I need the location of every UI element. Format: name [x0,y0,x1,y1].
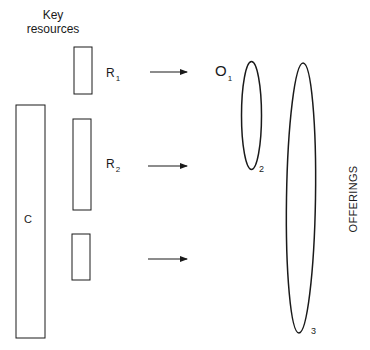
resource-box-r3 [72,234,90,280]
key-resources-heading: Key resources [13,8,93,36]
offering-ellipse-2 [242,62,262,170]
core-label: C [24,214,32,225]
offering-label-2: 2 [259,165,264,174]
diagram-canvas [0,0,370,350]
resource-label-r2: R2 [106,158,120,170]
offering-ellipse-3 [284,63,317,333]
heading-line-1: Key [13,8,93,22]
resource-box-r2 [73,119,91,210]
resource-label-r1: R1 [106,67,120,79]
offering-label-o1: O1 [215,63,232,78]
offering-label-3: 3 [311,327,316,336]
offerings-title: OFFERINGS [347,164,359,234]
heading-line-2: resources [13,22,93,36]
resource-box-r1 [74,47,92,94]
